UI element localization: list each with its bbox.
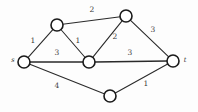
edge-weight-label-a-c: 1 (76, 36, 81, 45)
graph-edge-a-c (61, 29, 86, 58)
graph-edge-c-t (95, 61, 168, 62)
graph-edge-a-b (63, 17, 121, 25)
edge-weight-label-s-a: 1 (31, 36, 36, 45)
edge-weight-label-s-c: 3 (55, 48, 60, 57)
graph-node-t (167, 55, 179, 67)
graph-edge-s-d (29, 64, 105, 94)
edge-weight-label-s-d: 4 (55, 81, 60, 90)
graph-node-label-s: s (11, 56, 15, 64)
edge-weight-label-c-b: 2 (113, 32, 118, 41)
edge-weight-label-c-t: 3 (128, 48, 133, 57)
nodes-layer (18, 10, 179, 102)
graph-node-a (51, 19, 63, 31)
graph-edge-b-t (130, 20, 169, 57)
graph-edge-d-t (115, 64, 168, 94)
graph-node-d (104, 90, 116, 102)
graph-node-b (120, 10, 132, 22)
graph-edge-c-b (93, 20, 123, 57)
graph-node-s (18, 56, 30, 68)
graph-figure: 121323341 st (0, 0, 198, 112)
edge-labels-layer: 121323341 (31, 5, 156, 90)
edge-weight-label-b-t: 3 (151, 25, 156, 34)
graph-node-c (83, 56, 95, 68)
graph-canvas: 121323341 st (0, 0, 198, 112)
graph-node-label-t: t (184, 56, 187, 64)
edge-weight-label-d-t: 1 (144, 79, 149, 88)
edge-weight-label-a-b: 2 (90, 5, 95, 14)
